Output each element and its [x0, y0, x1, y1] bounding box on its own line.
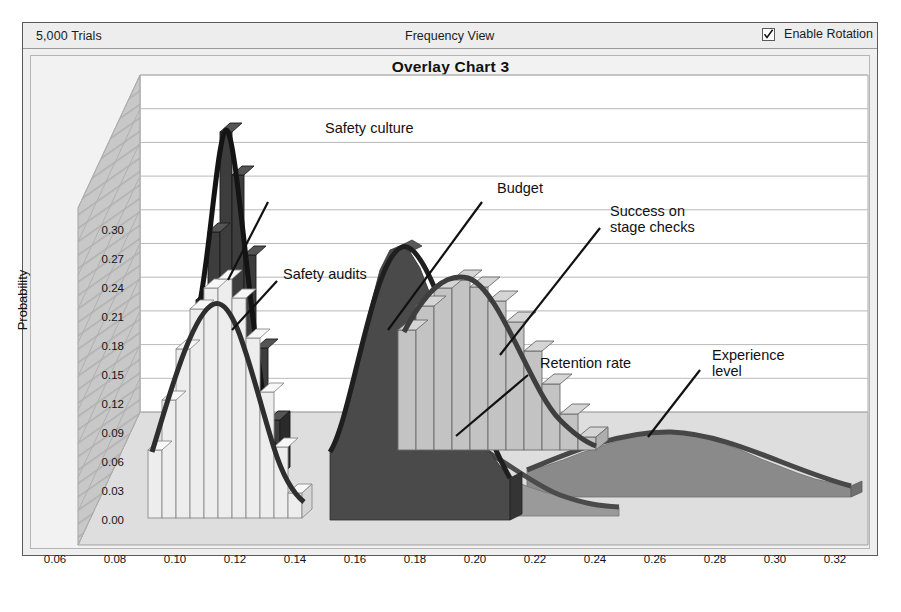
overlay-chart-window: 5,000 Trials Frequency View Enable Rotat… [0, 0, 901, 612]
annotation-safety-audits: Safety audits [283, 266, 367, 282]
x-tick-0.28: 0.28 [688, 553, 742, 565]
y-tick-0.03: 0.03 [78, 485, 124, 497]
y-tick-0.18: 0.18 [78, 340, 124, 352]
x-tick-0.20: 0.20 [448, 553, 502, 565]
y-tick-0.30: 0.30 [78, 224, 124, 236]
x-tick-0.10: 0.10 [148, 553, 202, 565]
y-tick-0.09: 0.09 [78, 427, 124, 439]
y-tick-0.27: 0.27 [78, 253, 124, 265]
y-tick-0.12: 0.12 [78, 398, 124, 410]
y-tick-0.21: 0.21 [78, 311, 124, 323]
y-axis-title: Probability [15, 270, 30, 331]
x-tick-0.24: 0.24 [568, 553, 622, 565]
x-tick-0.14: 0.14 [268, 553, 322, 565]
annotation-success-on-stage-checks: Success on stage checks [610, 203, 695, 235]
x-tick-0.22: 0.22 [508, 553, 562, 565]
x-tick-0.30: 0.30 [748, 553, 802, 565]
y-tick-0.06: 0.06 [78, 456, 124, 468]
x-tick-0.12: 0.12 [208, 553, 262, 565]
y-tick-0.15: 0.15 [78, 369, 124, 381]
x-tick-0.26: 0.26 [628, 553, 682, 565]
y-tick-0.00: 0.00 [78, 514, 124, 526]
annotation-safety-culture: Safety culture [325, 120, 414, 136]
x-tick-0.16: 0.16 [328, 553, 382, 565]
x-tick-0.32: 0.32 [808, 553, 862, 565]
annotation-experience-level: Experience level [712, 347, 785, 379]
y-tick-0.24: 0.24 [78, 282, 124, 294]
annotation-retention-rate: Retention rate [540, 355, 631, 371]
x-tick-0.08: 0.08 [88, 553, 142, 565]
chart-plot-area [0, 0, 901, 612]
annotation-budget: Budget [497, 180, 543, 196]
x-tick-0.18: 0.18 [388, 553, 442, 565]
x-tick-0.06: 0.06 [28, 553, 82, 565]
